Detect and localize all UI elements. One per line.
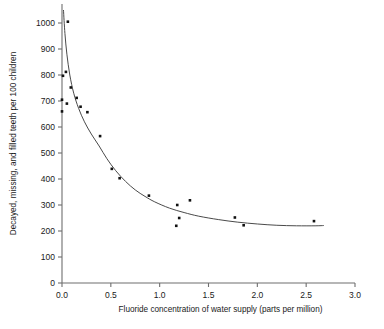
x-tick-label: 3.0 [349, 290, 361, 300]
data-point [99, 135, 102, 138]
x-tick-label: 1.5 [203, 290, 215, 300]
data-point [178, 217, 181, 220]
data-point [61, 110, 64, 113]
chart-figure: 01002003004005006007008009001000 0.00.51… [0, 0, 384, 329]
data-point [111, 168, 114, 171]
y-tick-label: 500 [41, 148, 55, 158]
data-point [65, 71, 68, 74]
y-tick-label: 400 [41, 174, 55, 184]
fitted-curve [63, 10, 323, 226]
data-point [313, 220, 316, 223]
y-axis-title: Decayed, missing, and filled teeth per 1… [9, 51, 18, 235]
data-point [75, 97, 78, 100]
y-axis-tick-labels: 01002003004005006007008009001000 [36, 18, 55, 288]
data-point [118, 177, 121, 180]
x-axis-ticks [62, 283, 355, 287]
y-tick-label: 0 [50, 278, 55, 288]
data-point [86, 111, 89, 114]
data-point [66, 102, 69, 105]
data-points-layer [61, 20, 316, 227]
y-tick-label: 800 [41, 70, 55, 80]
x-axis-group: 0.00.51.01.52.02.53.0 [56, 283, 361, 300]
y-axis-group: 01002003004005006007008009001000 [36, 4, 62, 288]
x-axis-title: Fluoride concentration of water supply (… [119, 305, 323, 314]
data-point [62, 74, 65, 77]
data-point [67, 20, 70, 23]
x-tick-label: 0.5 [105, 290, 117, 300]
y-tick-label: 700 [41, 96, 55, 106]
y-tick-label: 100 [41, 252, 55, 262]
y-tick-label: 600 [41, 122, 55, 132]
y-tick-label: 300 [41, 200, 55, 210]
x-tick-label: 2.5 [300, 290, 312, 300]
y-axis-ticks [58, 23, 62, 283]
x-axis-tick-labels: 0.00.51.01.52.02.53.0 [56, 290, 361, 300]
data-point [69, 86, 72, 89]
x-tick-label: 0.0 [56, 290, 68, 300]
data-point [234, 216, 237, 219]
x-tick-label: 1.0 [154, 290, 166, 300]
data-point [148, 194, 151, 197]
y-tick-label: 200 [41, 226, 55, 236]
x-tick-label: 2.0 [251, 290, 263, 300]
data-point [176, 204, 179, 207]
data-point [189, 199, 192, 202]
data-point [175, 225, 178, 228]
data-point [242, 224, 245, 227]
y-tick-label: 1000 [36, 18, 55, 28]
scatter-plot: 01002003004005006007008009001000 0.00.51… [0, 0, 384, 329]
data-point [61, 98, 64, 101]
y-tick-label: 900 [41, 44, 55, 54]
data-point [79, 105, 82, 108]
